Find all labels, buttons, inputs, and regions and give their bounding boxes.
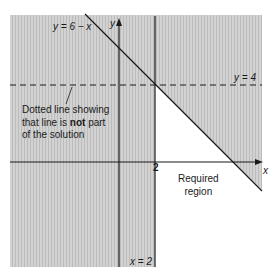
region-label-line-2: region <box>178 186 219 199</box>
x-tick-2: 2 <box>153 162 159 174</box>
required-region-label: Required region <box>178 173 219 198</box>
label-y-eq-6-minus-x: y = 6 − x <box>53 21 91 33</box>
label-y-eq-4: y = 4 <box>234 72 256 84</box>
annotation-line-3: of the solution <box>22 129 109 142</box>
dotted-line-annotation: Dotted line showing that line is not par… <box>22 104 109 142</box>
annotation-line-1: Dotted line showing <box>22 104 109 117</box>
annotation-line-2-pre: that line is <box>22 117 70 128</box>
region-label-line-1: Required <box>178 173 219 186</box>
y-axis-label: y <box>110 18 115 30</box>
annotation-emphasis: not <box>70 117 86 128</box>
annotation-line-2: that line is not part <box>22 117 109 130</box>
x-axis-label: x <box>263 165 268 177</box>
label-x-eq-2: x = 2 <box>130 256 152 268</box>
annotation-line-2-post: part <box>85 117 105 128</box>
